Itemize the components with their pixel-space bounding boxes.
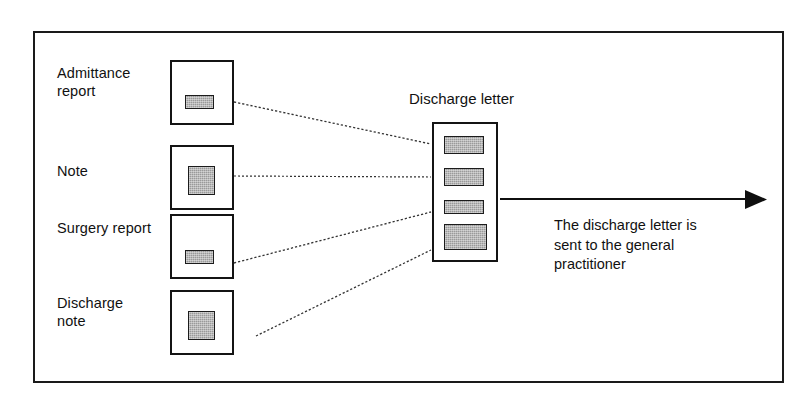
document-content-block [185,95,214,109]
document-label-admittance-report: Admittance report [57,64,167,100]
document-label-discharge-note: Discharge note [57,294,167,330]
document-label-note: Note [57,162,167,180]
diagram-canvas: Admittance report Note Surgery report Di… [0,0,812,408]
discharge-letter-box [432,122,498,262]
document-box-note [170,145,234,210]
document-box-discharge-note [170,290,234,355]
discharge-letter-title: Discharge letter [409,90,514,108]
discharge-letter-segment [444,136,484,154]
document-content-block [185,250,214,264]
document-box-admittance-report [170,60,234,125]
document-box-surgery-report [170,214,234,279]
document-content-block [188,311,215,340]
document-content-block [188,166,215,195]
discharge-letter-segment [444,200,484,214]
outgoing-arrow-caption: The discharge letter is sent to the gene… [554,216,784,275]
document-label-surgery-report: Surgery report [57,219,179,237]
discharge-letter-segment [444,168,484,186]
discharge-letter-segment [444,224,487,250]
